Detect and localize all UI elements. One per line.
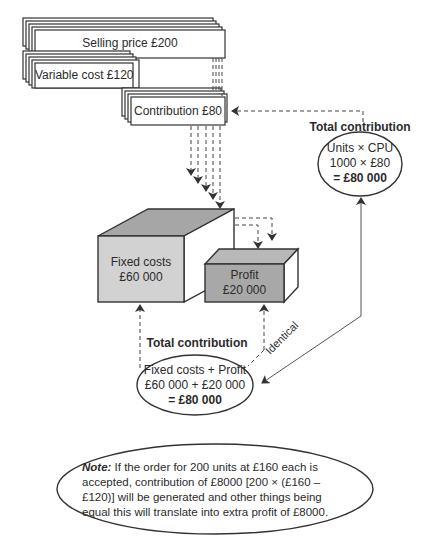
bottom-ellipse-line2: £60 000 + £20 000: [137, 378, 253, 393]
profit-value: £20 000: [205, 283, 284, 298]
bottom-ellipse-line3: = £80 000: [137, 393, 253, 408]
bottom-ellipse-line1: Fixed costs + Profit: [137, 363, 253, 378]
selling-price-label: Selling price £200: [40, 36, 220, 51]
note-prefix: Note:: [82, 461, 111, 473]
note-text: Note: If the order for 200 units at £160…: [82, 460, 352, 520]
note-body: If the order for 200 units at £160 each …: [82, 461, 328, 518]
fixed-costs-label: Fixed costs: [98, 255, 184, 270]
contribution-label: Contribution £80: [131, 104, 225, 119]
top-ellipse-line1: Units × CPU: [318, 141, 402, 156]
top-ellipse-line2: 1000 × £80: [318, 156, 402, 171]
variable-cost-label: Variable cost £120: [35, 68, 133, 83]
top-total-contribution-heading: Total contribution: [300, 120, 420, 135]
fixed-costs-value: £60 000: [98, 270, 184, 285]
bottom-total-contribution-heading: Total contribution: [137, 336, 257, 351]
profit-label: Profit: [205, 268, 284, 283]
top-ellipse-line3: = £80 000: [318, 171, 402, 186]
